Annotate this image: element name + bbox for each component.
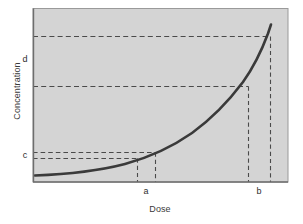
y-tick-label-c: c (18, 150, 32, 160)
x-tick-label-b: b (252, 186, 266, 196)
y-tick-label-d: d (18, 54, 32, 64)
chart-screenshot: Concentration Dose a b c d (0, 0, 303, 224)
y-axis-title: Concentration (12, 31, 22, 151)
x-tick-label-a: a (139, 186, 153, 196)
plot-panel-background (33, 9, 288, 183)
x-axis-title: Dose (110, 204, 210, 214)
